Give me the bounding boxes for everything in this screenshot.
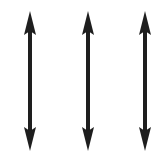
arrow-shaft <box>28 29 32 133</box>
arrow-shaft <box>86 29 90 133</box>
arrow-left-icon <box>24 11 36 151</box>
arrow-shaft <box>143 29 147 133</box>
arrow-right-icon <box>139 11 151 151</box>
arrows-figure <box>0 0 164 162</box>
arrow-middle-icon <box>82 11 94 151</box>
